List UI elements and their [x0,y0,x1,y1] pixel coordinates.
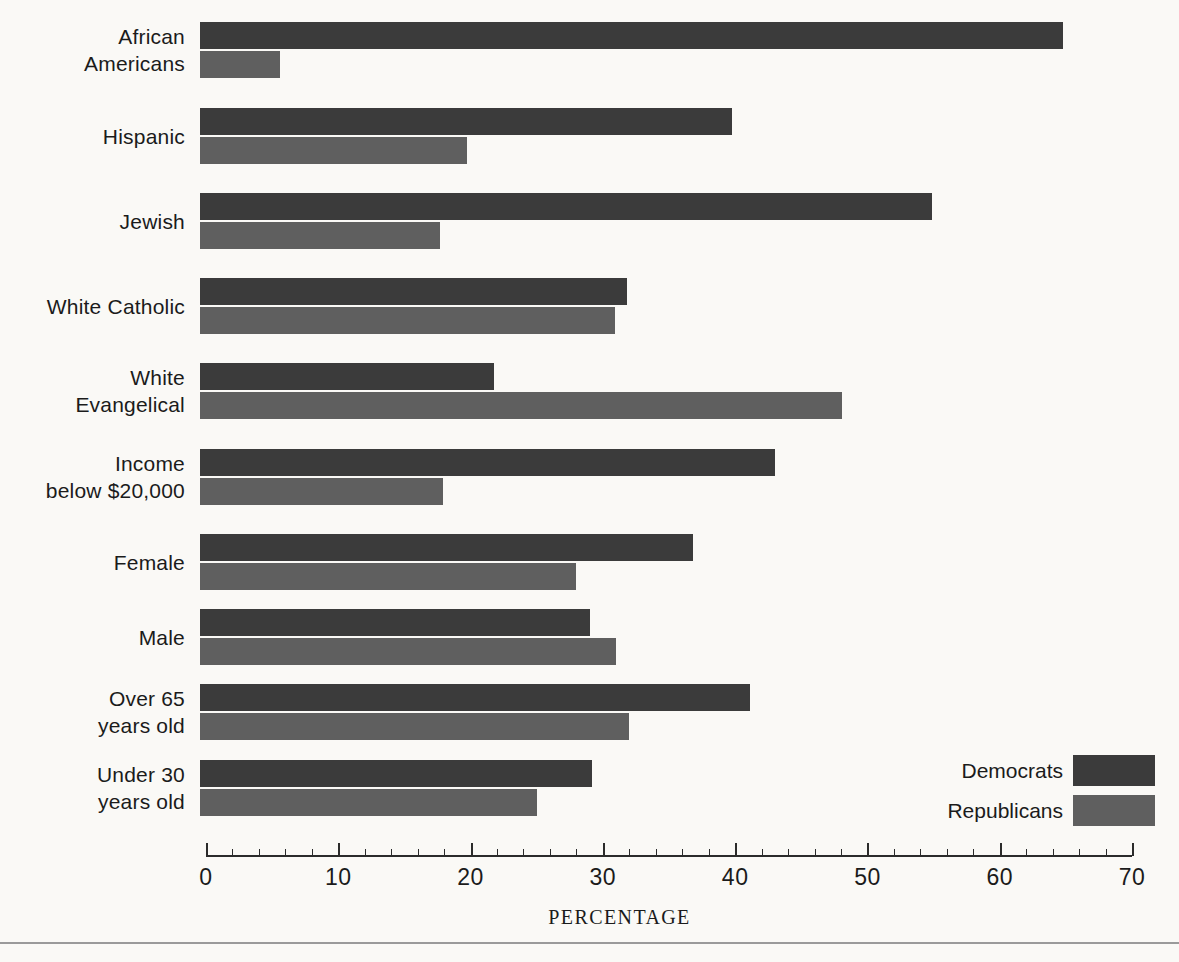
x-tick-minor [444,849,445,856]
bar-democrats [200,22,1063,49]
category-label: Under 30years old [0,761,185,815]
bar-republicans [200,789,537,816]
category-label: WhiteEvangelical [0,364,185,418]
bar-republicans [200,51,280,78]
bar-democrats [200,684,750,711]
x-tick-major [867,843,869,856]
x-tick-major [471,843,473,856]
x-tick-major [735,843,737,856]
legend-item: Democrats [940,755,1155,791]
x-tick-minor [259,849,260,856]
category-label-line: White Catholic [0,293,185,320]
x-tick-label: 0 [199,864,212,891]
x-tick-label: 30 [590,864,617,891]
x-tick-minor [1026,849,1027,856]
bar-democrats [200,534,693,561]
category-label: Over 65years old [0,685,185,739]
x-tick-minor [418,849,419,856]
bar-republicans [200,478,443,505]
bar-republicans [200,137,467,164]
x-tick-minor [709,849,710,856]
legend-item: Republicans [940,795,1155,831]
x-tick-major [206,843,208,856]
category-group: White Catholic [0,278,1179,334]
category-label-line: Male [0,624,185,651]
category-label-line: years old [0,712,185,739]
category-label: Incomebelow $20,000 [0,450,185,504]
x-tick-label: 10 [325,864,352,891]
x-tick-label: 50 [854,864,881,891]
category-group: Hispanic [0,108,1179,164]
category-label-line: below $20,000 [0,477,185,504]
bar-democrats [200,108,732,135]
x-tick-major [603,843,605,856]
category-label-line: Hispanic [0,123,185,150]
category-group: Over 65years old [0,684,1179,740]
category-label-line: Americans [0,50,185,77]
x-tick-minor [550,849,551,856]
bar-republicans [200,307,615,334]
legend: DemocratsRepublicans [940,755,1155,835]
x-tick-minor [523,849,524,856]
x-tick-minor [576,849,577,856]
x-tick-minor [365,849,366,856]
x-tick-minor [232,849,233,856]
x-tick-major [338,843,340,856]
category-label: Female [0,549,185,576]
category-group: WhiteEvangelical [0,363,1179,419]
x-tick-minor [973,849,974,856]
category-label: Jewish [0,208,185,235]
x-tick-label: 60 [986,864,1013,891]
category-label-line: White [0,364,185,391]
bar-republicans [200,392,842,419]
category-label-line: Jewish [0,208,185,235]
category-group: Incomebelow $20,000 [0,449,1179,505]
category-label: White Catholic [0,293,185,320]
x-tick-minor [391,849,392,856]
category-label: Hispanic [0,123,185,150]
x-tick-major [1132,843,1134,856]
x-tick-minor [497,849,498,856]
x-tick-minor [285,849,286,856]
bar-democrats [200,449,775,476]
bar-democrats [200,760,592,787]
bottom-rule [0,942,1179,944]
category-label-line: Under 30 [0,761,185,788]
x-axis-title: PERCENTAGE [0,906,1179,929]
x-axis-line [206,855,1132,857]
category-label: Male [0,624,185,651]
x-tick-minor [762,849,763,856]
x-tick-minor [312,849,313,856]
x-tick-major [1000,843,1002,856]
legend-swatch [1073,795,1155,826]
x-tick-label: 20 [457,864,484,891]
legend-label: Democrats [961,759,1063,783]
bar-democrats [200,278,627,305]
bar-republicans [200,222,440,249]
bar-democrats [200,193,932,220]
category-label-line: Evangelical [0,391,185,418]
chart-page: AfricanAmericansHispanicJewishWhite Cath… [0,0,1179,962]
bar-republicans [200,713,629,740]
category-label-line: African [0,23,185,50]
bar-republicans [200,638,616,665]
category-group: AfricanAmericans [0,22,1179,78]
x-tick-minor [894,849,895,856]
category-label-line: Income [0,450,185,477]
category-label: AfricanAmericans [0,23,185,77]
legend-label: Republicans [947,799,1063,823]
category-group: Jewish [0,193,1179,249]
x-tick-minor [1053,849,1054,856]
x-tick-minor [682,849,683,856]
x-tick-minor [788,849,789,856]
bar-republicans [200,563,576,590]
bar-democrats [200,609,590,636]
x-tick-minor [815,849,816,856]
x-tick-minor [1079,849,1080,856]
x-tick-minor [947,849,948,856]
x-axis-title-text: PERCENTAGE [548,906,690,929]
category-label-line: Female [0,549,185,576]
x-tick-minor [629,849,630,856]
category-label-line: years old [0,788,185,815]
x-tick-minor [920,849,921,856]
